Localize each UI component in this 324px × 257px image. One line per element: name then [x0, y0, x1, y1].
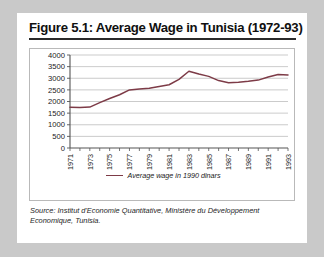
x-axis-tick-label: 1983: [185, 154, 194, 170]
x-axis-tick-label: 1989: [244, 154, 253, 170]
y-axis-tick-label: 2000: [48, 97, 65, 106]
title-divider: [29, 38, 296, 40]
legend-line-swatch: [106, 175, 123, 177]
x-axis-tick-label: 1985: [205, 154, 214, 170]
y-axis-tick-labels: 05001000150020002500300035004000: [48, 51, 65, 153]
y-axis-tick-label: 3000: [48, 74, 65, 83]
title-block: Figure 5.1: Average Wage in Tunisia (197…: [29, 20, 296, 40]
x-axis-tick-label: 1991: [264, 154, 273, 170]
page-title: Figure 5.1: Average Wage in Tunisia (197…: [29, 20, 296, 35]
data-line-average-wage: [70, 71, 288, 107]
y-axis-tick-label: 3500: [48, 62, 65, 71]
x-axis-tick-labels: 1971197319751977197919811983198519871989…: [66, 154, 293, 170]
x-axis-tick-label: 1979: [145, 154, 154, 170]
x-axis-tick-label: 1993: [284, 154, 293, 170]
figure-card: Figure 5.1: Average Wage in Tunisia (197…: [17, 13, 307, 243]
y-axis-tick-label: 500: [52, 132, 65, 141]
x-axis-tick-label: 1971: [66, 154, 75, 170]
chart-plot-area: 05001000150020002500300035004000 1971197…: [29, 48, 295, 201]
y-axis-tick-label: 1500: [48, 109, 65, 118]
x-axis-tick-label: 1977: [125, 154, 134, 170]
y-axis-tick-label: 4000: [48, 51, 65, 60]
x-axis-tick-label: 1975: [105, 154, 114, 170]
gridlines-group: [67, 55, 288, 148]
x-axis-tick-label: 1973: [86, 154, 95, 170]
x-axis-tick-label: 1981: [165, 154, 174, 170]
y-axis-tick-label: 2500: [48, 86, 65, 95]
chart-legend: Average wage in 1990 dinars: [30, 171, 296, 180]
y-axis-tick-label: 1000: [48, 120, 65, 129]
source-note: Source: Institut d'Economie Quantitative…: [30, 206, 292, 226]
x-axis-tick-label: 1987: [224, 154, 233, 170]
y-axis-tick-label: 0: [61, 144, 65, 153]
legend-entry-label: Average wage in 1990 dinars: [128, 171, 221, 180]
